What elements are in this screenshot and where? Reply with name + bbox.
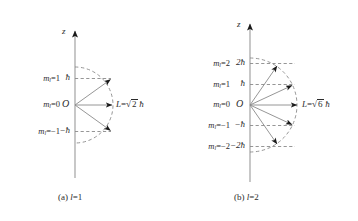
- equals-sign: =: [121, 99, 126, 109]
- tick-b-neg1: −ħ: [215, 119, 245, 129]
- m-label-b-0: ml=0: [184, 99, 230, 109]
- vector-a-m1: [75, 80, 111, 106]
- origin-label-a: O: [62, 98, 69, 109]
- caption-value: =2: [249, 192, 259, 202]
- m-label-a-0: ml=0: [14, 99, 60, 109]
- radicand: 2: [131, 99, 138, 109]
- magnitude-label-b: L=√6 ħ: [302, 99, 330, 109]
- caption-value: =1: [73, 192, 83, 202]
- m-value: =0: [51, 99, 60, 109]
- panel-b: [250, 24, 297, 182]
- caption-prefix: (a): [58, 192, 68, 202]
- caption-a: (a) l=1: [58, 192, 82, 202]
- radicand: 6: [317, 99, 324, 109]
- equals-sign: =: [307, 99, 312, 109]
- tick-b-neg2: −2ħ: [210, 140, 245, 150]
- magnitude-label-a: L=√2 ħ: [116, 99, 144, 109]
- m-value: =0: [221, 99, 230, 109]
- panel-a: [75, 31, 113, 178]
- tick-b-1: ħ: [219, 78, 245, 88]
- caption-prefix: (b): [234, 192, 245, 202]
- z-axis-label-a: z: [62, 26, 66, 36]
- caption-b: (b) l=2: [234, 192, 259, 202]
- tick-a-1: ħ: [44, 72, 70, 82]
- tick-b-2: 2ħ: [214, 57, 245, 67]
- vector-a-mneg1: [75, 105, 111, 131]
- z-axis-label-b: z: [237, 19, 241, 29]
- hbar-symbol: ħ: [325, 99, 330, 109]
- hbar-symbol: ħ: [139, 99, 144, 109]
- origin-label-b: O: [236, 98, 243, 109]
- angular-momentum-figure: [0, 0, 358, 221]
- tick-a-neg1: −ħ: [40, 125, 70, 135]
